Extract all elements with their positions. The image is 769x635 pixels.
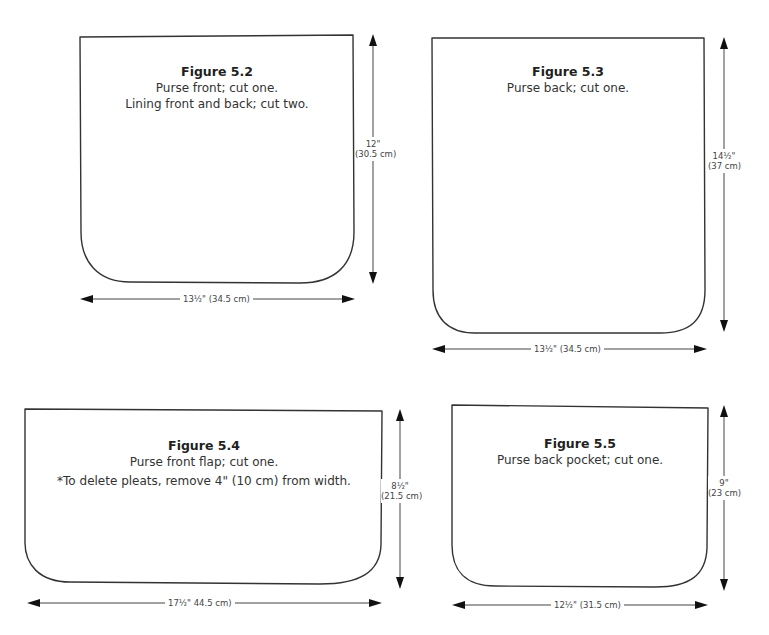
figure-5-3-height-label: 14½" (37 cm)	[708, 149, 740, 173]
figure-caption: Lining front and back; cut two.	[117, 96, 317, 112]
figure-5-3-width-label: 13½" (34.5 cm)	[531, 344, 604, 354]
figure-5-4-width-label: 17½" 44.5 cm)	[165, 598, 235, 608]
arrow-up-icon	[720, 37, 728, 49]
figure-caption: Purse front; cut one.	[117, 80, 317, 96]
figure-5-5-height-label: 9" (23 cm)	[708, 476, 740, 500]
arrow-right-icon	[369, 599, 382, 607]
figure-caption: Purse back; cut one.	[468, 80, 668, 96]
figure-5-2-width-label: 13½" (34.5 cm)	[180, 294, 253, 304]
arrow-down-icon	[720, 579, 728, 591]
arrow-left-icon	[452, 601, 465, 609]
arrow-down-icon	[369, 272, 377, 284]
arrow-up-icon	[396, 409, 404, 421]
figure-title: Figure 5.4	[54, 438, 354, 454]
figure-5-5-label: Figure 5.5 Purse back pocket; cut one.	[480, 436, 680, 468]
figure-caption: Purse back pocket; cut one.	[480, 452, 680, 468]
figure-title: Figure 5.3	[468, 64, 668, 80]
figure-5-4-height-label: 8½" (21.5 cm)	[381, 479, 419, 503]
arrow-down-icon	[720, 320, 728, 332]
figure-5-4-outline	[25, 409, 382, 584]
figure-5-2-label: Figure 5.2 Purse front; cut one. Lining …	[117, 64, 317, 112]
arrow-up-icon	[369, 34, 377, 46]
figure-caption-note: *To delete pleats, remove 4" (10 cm) fro…	[54, 473, 354, 489]
figure-5-3-label: Figure 5.3 Purse back; cut one.	[468, 64, 668, 96]
arrow-up-icon	[720, 405, 728, 417]
arrow-left-icon	[27, 599, 40, 607]
arrow-left-icon	[80, 295, 93, 303]
figure-title: Figure 5.5	[480, 436, 680, 452]
arrow-right-icon	[694, 345, 707, 353]
figure-5-4-label: Figure 5.4 Purse front flap; cut one. *T…	[54, 438, 354, 489]
figure-caption: Purse front flap; cut one.	[54, 454, 354, 470]
figure-5-5-outline	[452, 405, 708, 587]
figure-5-5-width-label: 12½" (31.5 cm)	[551, 600, 624, 610]
figure-title: Figure 5.2	[117, 64, 317, 80]
arrow-right-icon	[342, 295, 355, 303]
arrow-left-icon	[432, 345, 445, 353]
arrow-right-icon	[695, 601, 708, 609]
figure-5-2-height-label: 12" (30.5 cm)	[355, 137, 391, 161]
arrow-down-icon	[396, 577, 404, 589]
